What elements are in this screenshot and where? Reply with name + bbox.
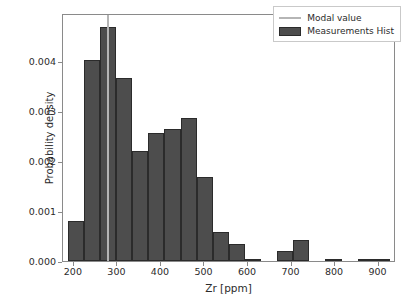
legend-label: Measurements Hist <box>307 26 394 36</box>
x-axis-tick-mark <box>160 262 161 266</box>
histogram-bar <box>197 177 213 261</box>
plot-area <box>63 15 394 261</box>
y-axis-tick-label: 0.002 <box>20 157 56 167</box>
histogram-bar <box>116 78 132 261</box>
x-axis-tick-label: 900 <box>369 266 387 277</box>
x-axis-tick-label: 200 <box>64 266 82 277</box>
x-axis-tick-mark <box>334 262 335 266</box>
x-axis-label: Zr [ppm] <box>62 282 395 294</box>
legend-label: Modal value <box>307 13 361 23</box>
plot-axes-frame <box>62 14 395 262</box>
histogram-bar <box>68 221 84 261</box>
legend-item: Modal value <box>279 11 394 24</box>
x-axis-tick-mark <box>73 262 74 266</box>
y-axis-tick-mark <box>58 212 62 213</box>
histogram-bar <box>213 232 229 261</box>
x-axis-tick-mark <box>378 262 379 266</box>
y-axis-tick-label: 0.004 <box>20 57 56 67</box>
x-axis-tick-label: 800 <box>325 266 343 277</box>
y-axis-tick-mark <box>58 262 62 263</box>
legend-patch-swatch <box>279 27 301 36</box>
histogram-bar <box>293 240 309 261</box>
legend-line-swatch <box>279 12 301 23</box>
legend-item: Measurements Hist <box>279 24 394 37</box>
x-axis-tick-label: 400 <box>151 266 169 277</box>
y-axis-tick-mark <box>58 162 62 163</box>
x-axis-tick-mark <box>203 262 204 266</box>
histogram-bar <box>277 251 293 261</box>
histogram-bar <box>164 129 180 261</box>
x-axis-tick-label: 700 <box>281 266 299 277</box>
histogram-bar <box>229 244 245 261</box>
chart-legend: Modal valueMeasurements Hist <box>273 6 401 42</box>
histogram-bar <box>374 259 390 261</box>
y-axis-tick-label: 0.001 <box>20 207 56 217</box>
histogram-bar <box>245 259 261 261</box>
histogram-bar <box>132 151 148 261</box>
x-axis-tick-mark <box>291 262 292 266</box>
y-axis-tick-mark <box>58 112 62 113</box>
y-axis-tick-label: 0.000 <box>20 257 56 267</box>
modal-value-line <box>107 15 109 261</box>
y-axis-tick-label: 0.003 <box>20 107 56 117</box>
y-axis-tick-mark <box>58 62 62 63</box>
histogram-bar <box>358 259 374 261</box>
x-axis-tick-label: 300 <box>107 266 125 277</box>
x-axis-tick-label: 500 <box>194 266 212 277</box>
histogram-bar <box>325 259 341 261</box>
histogram-bar <box>84 60 100 261</box>
x-axis-tick-mark <box>116 262 117 266</box>
x-axis-tick-label: 600 <box>238 266 256 277</box>
histogram-figure: Probability density 0.0000.0010.0020.003… <box>0 0 407 306</box>
histogram-bar <box>181 118 197 261</box>
x-axis-tick-mark <box>247 262 248 266</box>
y-axis-label-container: Probability density <box>4 14 18 262</box>
histogram-bar <box>148 133 164 261</box>
